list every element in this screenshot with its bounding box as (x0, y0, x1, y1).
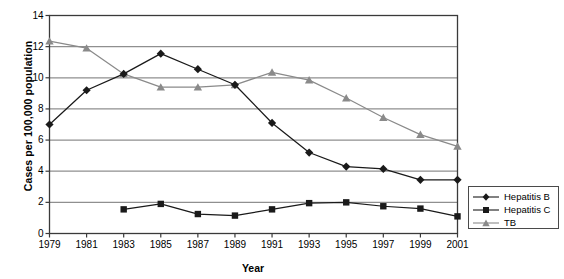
y-axis-tick-label: 4 (18, 166, 44, 176)
y-axis-tick-label: 10 (18, 73, 44, 83)
plot-area (0, 0, 564, 279)
x-axis-tick-label: 1981 (67, 240, 107, 250)
line-chart: Cases per 100,000 population Year 024681… (0, 0, 564, 279)
diamond-marker-icon (472, 191, 500, 203)
legend-label-tb: TB (504, 218, 516, 228)
x-axis-title: Year (49, 262, 457, 274)
legend-item-hepatitis-c[interactable]: Hepatitis C (472, 203, 550, 216)
x-axis-tick-label: 1989 (215, 240, 255, 250)
x-axis-tick-label: 1985 (141, 240, 181, 250)
square-marker-icon (472, 204, 500, 216)
y-axis-tick-label: 0 (18, 229, 44, 239)
y-axis-tick-label: 14 (18, 11, 44, 21)
x-axis-tick-label: 1983 (104, 240, 144, 250)
x-axis-tick-label: 1979 (30, 240, 70, 250)
x-axis-tick-label: 1993 (289, 240, 329, 250)
chart-legend: Hepatitis B Hepatitis C TB (468, 186, 559, 229)
x-axis-tick-label: 1999 (400, 240, 440, 250)
legend-label-hepatitis-b: Hepatitis B (504, 192, 550, 202)
x-axis-tick-label: 1987 (178, 240, 218, 250)
legend-label-hepatitis-c: Hepatitis C (504, 205, 550, 215)
triangle-marker-icon (472, 217, 500, 229)
y-axis-tick-label: 2 (18, 197, 44, 207)
y-axis-tick-label: 6 (18, 135, 44, 145)
legend-item-hepatitis-b[interactable]: Hepatitis B (472, 190, 550, 203)
y-axis-tick-label: 8 (18, 104, 44, 114)
legend-item-tb[interactable]: TB (472, 216, 516, 229)
x-axis-tick-label: 1997 (363, 240, 403, 250)
x-axis-tick-label: 2001 (438, 240, 478, 250)
x-axis-tick-label: 1991 (252, 240, 292, 250)
y-axis-tick-label: 12 (18, 42, 44, 52)
x-axis-tick-label: 1995 (326, 240, 366, 250)
